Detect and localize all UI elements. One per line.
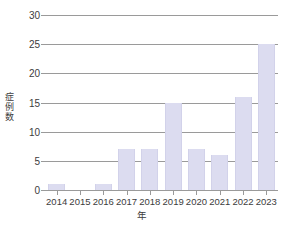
bar-chart: 症 例 数 051015202530 201420152016201720182… bbox=[0, 0, 284, 226]
y-axis-tick-label: 20 bbox=[4, 68, 40, 79]
y-axis-tick bbox=[41, 190, 45, 191]
bar bbox=[165, 103, 182, 191]
y-axis-tick bbox=[41, 161, 45, 162]
gridline bbox=[45, 15, 278, 16]
y-axis-tick-labels: 051015202530 bbox=[0, 0, 40, 226]
y-axis-tick-label: 15 bbox=[4, 97, 40, 108]
y-axis-tick bbox=[41, 44, 45, 45]
bar bbox=[211, 155, 228, 190]
y-axis-tick bbox=[41, 15, 45, 16]
y-axis-tick bbox=[41, 132, 45, 133]
x-axis-tick bbox=[196, 191, 197, 195]
x-axis-tick bbox=[266, 191, 267, 195]
x-axis-tick-label: 2023 bbox=[251, 196, 281, 207]
x-axis-tick bbox=[173, 191, 174, 195]
bar bbox=[188, 149, 205, 190]
y-axis-tick-label: 25 bbox=[4, 39, 40, 50]
y-axis-tick-label: 0 bbox=[4, 185, 40, 196]
x-axis-tick bbox=[57, 191, 58, 195]
bar bbox=[118, 149, 135, 190]
y-axis-tick-label: 5 bbox=[4, 155, 40, 166]
bar bbox=[258, 44, 275, 190]
y-axis-tick bbox=[41, 103, 45, 104]
x-axis-tick bbox=[80, 191, 81, 195]
y-axis-tick-label: 10 bbox=[4, 126, 40, 137]
x-axis-tick bbox=[243, 191, 244, 195]
x-axis-tick bbox=[103, 191, 104, 195]
y-axis-tick-label: 30 bbox=[4, 10, 40, 21]
bar bbox=[235, 97, 252, 190]
x-axis-tick bbox=[220, 191, 221, 195]
x-axis-tick bbox=[127, 191, 128, 195]
x-axis-tick bbox=[150, 191, 151, 195]
plot-area bbox=[45, 15, 278, 190]
gridline bbox=[45, 44, 278, 45]
x-axis-title: 年 bbox=[0, 208, 284, 222]
bar bbox=[141, 149, 158, 190]
y-axis-tick bbox=[41, 73, 45, 74]
gridline bbox=[45, 73, 278, 74]
